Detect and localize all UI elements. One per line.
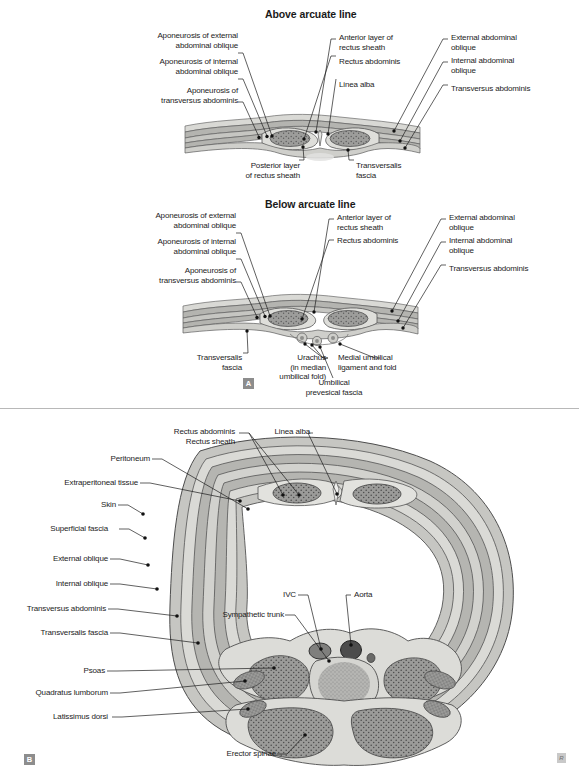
label-aponeurosis-transversus-above: Aponeurosis of transversus abdominis xyxy=(78,86,238,105)
label-aponeurosis-transversus-below: Aponeurosis of transversus abdominis xyxy=(76,266,236,285)
label-ivc: IVC xyxy=(272,590,296,600)
label-erector-spinae: Erector spinae xyxy=(206,749,276,759)
label-linea-alba-b: Linea alba xyxy=(248,427,310,437)
label-external-abdominal-oblique-below: External abdominal oblique xyxy=(449,213,573,232)
label-internal-oblique: Internal oblique xyxy=(20,579,108,589)
label-aorta: Aorta xyxy=(354,590,394,600)
label-aponeurosis-external-oblique-below: Aponeurosis of external abdominal obliqu… xyxy=(76,211,236,230)
above-arcuate-artwork xyxy=(185,114,420,161)
panel-b: Rectus abdominis Rectus sheath Linea alb… xyxy=(0,408,579,784)
label-internal-abdominal-oblique-above: Internal abdominal oblique xyxy=(451,56,575,75)
label-quadratus-lumborum: Quadratus lumborum xyxy=(16,688,108,698)
label-sympathetic-trunk: Sympathetic trunk xyxy=(196,610,284,620)
label-psoas: Psoas xyxy=(62,666,105,676)
label-aponeurosis-internal-oblique-below: Aponeurosis of internal abdominal obliqu… xyxy=(76,237,236,256)
label-peritoneum: Peritoneum xyxy=(52,454,150,464)
label-transversus-abdominis-above: Transversus abdominis xyxy=(451,84,575,94)
below-arcuate-artwork xyxy=(183,294,418,345)
panel-a: Above arcuate line xyxy=(0,0,579,408)
label-aponeurosis-external-oblique-above: Aponeurosis of external abdominal obliqu… xyxy=(78,31,238,50)
panel-tag-b: B xyxy=(24,754,35,765)
label-transversalis-fascia-below: Transversalis fascia xyxy=(158,353,242,372)
figure-page: Above arcuate line xyxy=(0,0,579,784)
label-posterior-layer-rectus-sheath: Posterior layer of rectus sheath xyxy=(182,161,300,180)
label-transversus-abdominis-below: Transversus abdominis xyxy=(449,264,573,274)
label-latissimus-dorsi: Latissimus dorsi xyxy=(34,712,108,722)
label-anterior-layer-rectus-sheath-below: Anterior layer of rectus sheath xyxy=(337,213,447,232)
label-internal-abdominal-oblique-below: Internal abdominal oblique xyxy=(449,236,573,255)
label-umbilical-prevesical-fascia: Umbilical prevesical fascia xyxy=(288,378,380,397)
panel-tag-a: A xyxy=(243,378,254,389)
corner-credit-mark-b: R xyxy=(557,753,566,763)
label-transversalis-fascia-b: Transversalis fascia xyxy=(16,628,108,638)
label-linea-alba-above: Linea alba xyxy=(339,80,449,90)
caption-strip xyxy=(0,770,579,784)
below-arcuate-line-title: Below arcuate line xyxy=(265,198,355,210)
label-transversus-abdominis-b: Transversus abdominis xyxy=(2,604,106,614)
label-rectus-abdominis-b: Rectus abdominis xyxy=(135,427,235,437)
label-external-abdominal-oblique-above: External abdominal oblique xyxy=(451,33,575,52)
label-rectus-abdominis-above: Rectus abdominis xyxy=(339,57,449,67)
label-rectus-sheath-b: Rectus sheath xyxy=(135,437,235,447)
label-anterior-layer-rectus-sheath-above: Anterior layer of rectus sheath xyxy=(339,33,449,52)
label-external-oblique: External oblique xyxy=(20,554,108,564)
label-extraperitoneal-tissue: Extraperitoneal tissue xyxy=(26,478,138,488)
label-rectus-abdominis-below: Rectus abdominis xyxy=(337,236,447,246)
label-aponeurosis-internal-oblique-above: Aponeurosis of internal abdominal obliqu… xyxy=(78,57,238,76)
label-medial-umbilical-ligament: Medial umbilical ligament and fold xyxy=(338,353,448,372)
label-skin: Skin xyxy=(62,500,116,510)
label-transversalis-fascia-above: Transversalis fascia xyxy=(356,161,456,180)
label-superficial-fascia: Superficial fascia xyxy=(26,524,108,534)
